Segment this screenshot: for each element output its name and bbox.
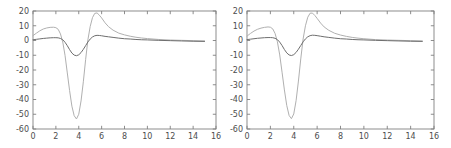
x-tick-label: 16 [428, 132, 438, 141]
x-tick-label: 8 [122, 132, 127, 141]
y-tick-label: -50 [229, 110, 242, 119]
y-tick-label: -20 [229, 66, 242, 75]
y-tick-label: -10 [229, 51, 242, 60]
y-tick-label: -40 [229, 95, 242, 104]
figure-container: 024681012141620100-10-20-30-40-50-60 024… [0, 0, 451, 148]
x-tick-label: 0 [244, 132, 249, 141]
y-tick-label: 20 [232, 7, 242, 16]
y-tick-label: 10 [232, 22, 242, 31]
x-tick-label: 14 [405, 132, 415, 141]
right-plot-svg: 024681012141620100-10-20-30-40-50-60 [226, 0, 451, 148]
series-line-dark-gray-curve [33, 35, 205, 55]
y-tick-label: -40 [16, 95, 29, 104]
x-tick-label: 6 [314, 132, 319, 141]
series-line-light-gray-curve [33, 13, 205, 119]
x-tick-label: 4 [291, 132, 296, 141]
series-line-dark-gray-curve [247, 35, 422, 55]
y-tick-label: -30 [16, 81, 29, 90]
y-tick-label: -20 [16, 66, 29, 75]
x-tick-label: 6 [99, 132, 104, 141]
plot-frame [247, 11, 434, 129]
y-tick-label: -10 [16, 51, 29, 60]
y-tick-label: 20 [19, 7, 29, 16]
y-tick-label: 10 [19, 22, 29, 31]
plot-frame [33, 11, 216, 129]
chart-panel-right: 024681012141620100-10-20-30-40-50-60 [226, 0, 451, 148]
y-tick-label: -60 [229, 125, 242, 134]
x-tick-label: 2 [53, 132, 58, 141]
x-tick-label: 10 [358, 132, 368, 141]
x-tick-label: 16 [211, 132, 221, 141]
x-tick-label: 2 [267, 132, 272, 141]
x-tick-label: 8 [337, 132, 342, 141]
chart-panel-left: 024681012141620100-10-20-30-40-50-60 [0, 0, 226, 148]
y-tick-label: -60 [16, 125, 29, 134]
x-tick-label: 4 [76, 132, 81, 141]
x-tick-label: 10 [142, 132, 152, 141]
y-tick-label: -30 [229, 81, 242, 90]
x-tick-label: 0 [30, 132, 35, 141]
y-tick-label: 0 [24, 36, 29, 45]
y-tick-label: 0 [237, 36, 242, 45]
x-tick-label: 14 [188, 132, 198, 141]
x-tick-label: 12 [382, 132, 392, 141]
y-tick-label: -50 [16, 110, 29, 119]
left-plot-svg: 024681012141620100-10-20-30-40-50-60 [0, 0, 226, 148]
x-tick-label: 12 [165, 132, 175, 141]
series-line-light-gray-curve [247, 13, 422, 119]
